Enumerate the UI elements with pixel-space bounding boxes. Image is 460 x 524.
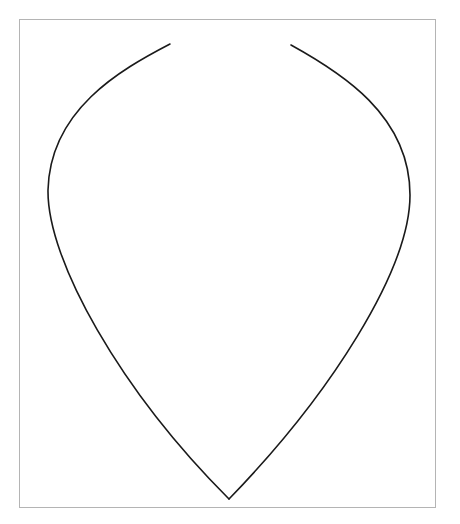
left-side-curve [48,44,229,499]
right-side-curve [229,45,410,499]
drawing-canvas [0,0,460,524]
